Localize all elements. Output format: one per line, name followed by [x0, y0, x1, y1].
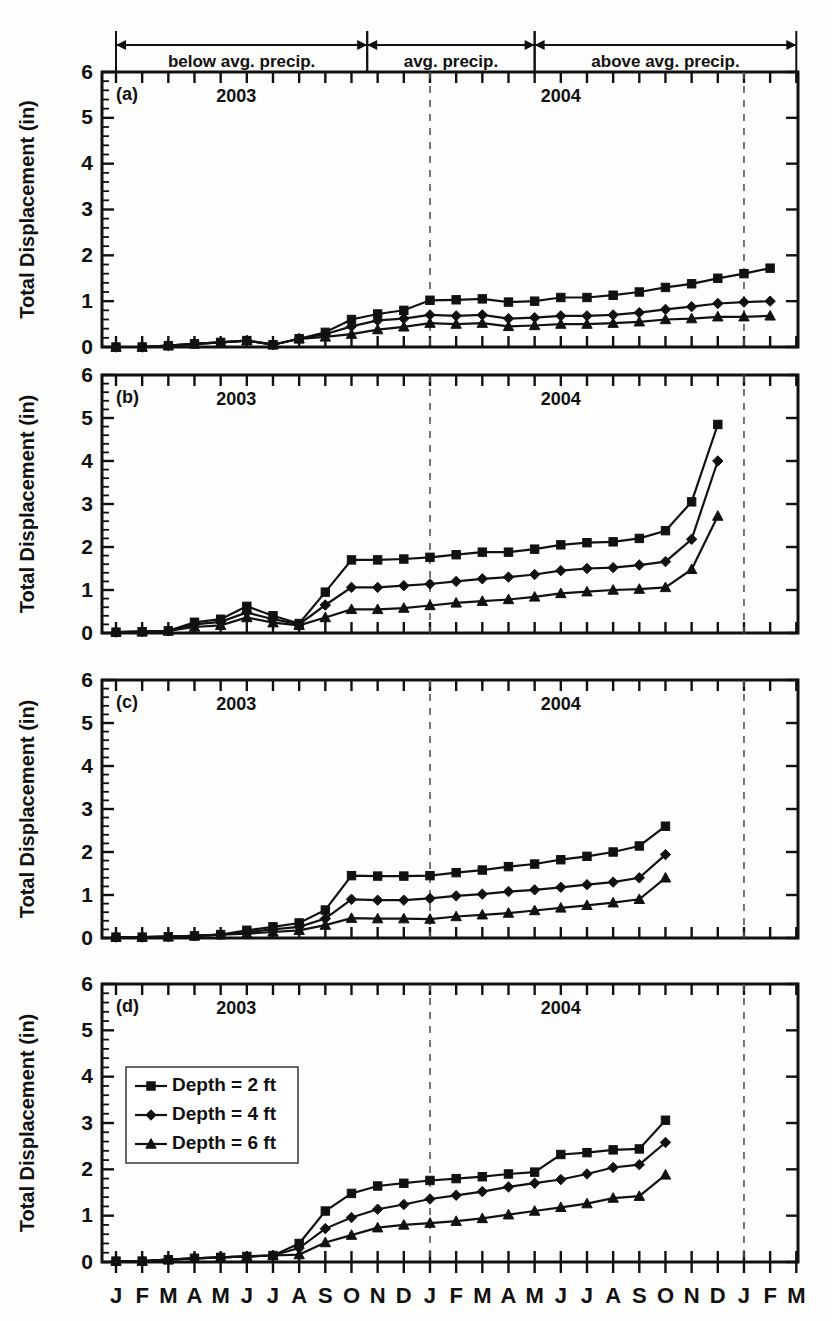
legend: Depth = 2 ftDepth = 4 ftDepth = 6 ft: [126, 1067, 298, 1163]
series-marker-0: [557, 293, 565, 301]
y-tick-label: 5: [81, 1018, 93, 1041]
series-marker-0: [557, 1150, 565, 1158]
series-line-2: [116, 316, 770, 347]
y-tick-label: 5: [81, 711, 93, 734]
series-marker-0: [661, 526, 669, 534]
y-tick-label: 2: [81, 840, 93, 863]
series-marker-0: [635, 1145, 643, 1153]
y-tick-label: 4: [81, 754, 93, 777]
panel-c: 0123456Total Displacement (in)(c)2003200…: [16, 668, 798, 949]
month-label: J: [738, 1283, 750, 1308]
series-marker-0: [687, 280, 695, 288]
series-marker-1: [686, 301, 696, 311]
month-label: A: [187, 1283, 203, 1308]
series-marker-1: [529, 1178, 539, 1188]
series-marker-0: [714, 420, 722, 428]
y-tick-label: 4: [81, 1064, 93, 1087]
series-marker-0: [478, 548, 486, 556]
series-marker-0: [687, 498, 695, 506]
series-marker-1: [372, 895, 382, 905]
month-label: J: [241, 1283, 253, 1308]
series-marker-0: [478, 866, 486, 874]
series-marker-0: [530, 860, 538, 868]
y-tick-label: 3: [81, 1111, 93, 1134]
series-marker-1: [346, 1212, 356, 1222]
series-line-2: [116, 1175, 666, 1261]
series-marker-0: [452, 551, 460, 559]
year-label: 2004: [541, 694, 581, 714]
month-label: O: [343, 1283, 360, 1308]
series-marker-0: [530, 545, 538, 553]
series-marker-1: [739, 297, 749, 307]
series-marker-1: [477, 574, 487, 584]
series-marker-1: [372, 1204, 382, 1214]
series-marker-0: [452, 296, 460, 304]
year-label: 2004: [541, 389, 581, 409]
y-tick-label: 6: [81, 60, 93, 83]
arrow-head-right: [525, 40, 535, 50]
series-marker-1: [425, 893, 435, 903]
series-marker-1: [451, 891, 461, 901]
y-tick-label: 6: [81, 972, 93, 995]
series-marker-0: [373, 556, 381, 564]
y-axis-title: Total Displacement (in): [16, 395, 38, 614]
series-marker-1: [608, 1162, 618, 1172]
precip-band-0: below avg. precip.: [116, 31, 367, 72]
series-marker-0: [452, 868, 460, 876]
series-marker-0: [452, 1174, 460, 1182]
series-marker-0: [504, 298, 512, 306]
series-marker-2: [713, 511, 723, 521]
legend-marker-0: [147, 1082, 155, 1090]
series-line-0: [116, 425, 718, 633]
y-tick-label: 3: [81, 797, 93, 820]
series-marker-0: [583, 852, 591, 860]
arrow-head-left: [116, 40, 126, 50]
month-label: D: [396, 1283, 412, 1308]
year-label: 2003: [216, 694, 256, 714]
series-marker-0: [583, 1148, 591, 1156]
series-marker-0: [426, 871, 434, 879]
panel-frame: [102, 680, 798, 938]
series-marker-1: [399, 581, 409, 591]
year-label: 2004: [541, 998, 581, 1018]
series-line-0: [116, 268, 770, 347]
panel-a: 0123456Total Displacement (in)(a)2003200…: [16, 60, 798, 358]
month-label: M: [787, 1283, 805, 1308]
series-marker-0: [583, 293, 591, 301]
chart-canvas: below avg. precip.avg. precip.above avg.…: [0, 0, 832, 1321]
series-marker-0: [504, 862, 512, 870]
series-marker-0: [426, 296, 434, 304]
series-marker-0: [347, 556, 355, 564]
y-tick-label: 0: [81, 335, 93, 358]
series-marker-1: [399, 895, 409, 905]
series-marker-1: [451, 576, 461, 586]
series-marker-0: [635, 288, 643, 296]
series-marker-1: [556, 565, 566, 575]
series-marker-1: [556, 882, 566, 892]
series-marker-1: [477, 889, 487, 899]
y-tick-label: 1: [81, 883, 93, 906]
series-marker-0: [583, 539, 591, 547]
y-tick-label: 5: [81, 105, 93, 128]
series-marker-0: [609, 538, 617, 546]
month-label: N: [684, 1283, 700, 1308]
series-marker-0: [400, 1179, 408, 1187]
series-marker-1: [765, 296, 775, 306]
series-marker-1: [556, 1174, 566, 1184]
series-marker-1: [425, 1194, 435, 1204]
y-tick-label: 1: [81, 289, 93, 312]
month-label: A: [605, 1283, 621, 1308]
series-marker-0: [740, 269, 748, 277]
month-label: J: [267, 1283, 279, 1308]
year-label: 2004: [541, 86, 581, 106]
y-tick-label: 2: [81, 535, 93, 558]
y-tick-label: 5: [81, 406, 93, 429]
precip-band-1: avg. precip.: [367, 31, 534, 72]
month-label: J: [581, 1283, 593, 1308]
x-axis-month-labels: JFMAMJJASONDJFMAMJJASONDJFM: [110, 1283, 806, 1308]
month-label: M: [525, 1283, 543, 1308]
y-tick-label: 2: [81, 1157, 93, 1180]
series-marker-2: [660, 1169, 670, 1179]
precip-band-label: avg. precip.: [404, 52, 498, 71]
panel-tag: (a): [116, 84, 138, 104]
